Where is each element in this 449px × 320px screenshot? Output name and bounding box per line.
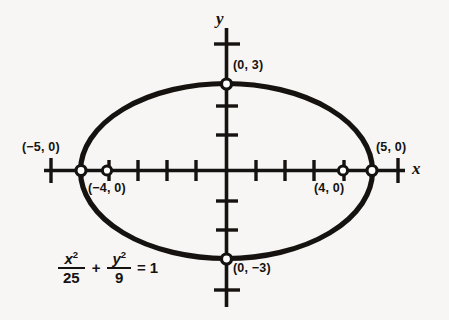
equals-sign: = xyxy=(137,259,146,276)
numerator-y-squared: y2 xyxy=(107,250,131,267)
x-axis-label: x xyxy=(412,159,421,179)
point-0-3 xyxy=(222,79,232,89)
fraction-x-squared-over-25: x2 25 xyxy=(58,250,85,286)
ellipse-figure: y x (0, 3) (0, −3) (−5, 0) (5, 0) (−4, 0… xyxy=(0,0,449,320)
point-neg4-0 xyxy=(102,166,111,175)
point-5-0 xyxy=(367,166,377,176)
label-point-neg4-0: (−4, 0) xyxy=(88,181,126,195)
label-point-neg5-0: (−5, 0) xyxy=(22,140,60,154)
label-point-4-0: (4, 0) xyxy=(314,181,344,195)
plus-operator: + xyxy=(92,259,101,277)
label-point-0-3: (0, 3) xyxy=(233,58,263,72)
denominator-25: 25 xyxy=(58,269,85,285)
point-4-0 xyxy=(338,166,347,175)
label-point-5-0: (5, 0) xyxy=(376,140,406,154)
label-point-0-neg3: (0, −3) xyxy=(233,261,271,275)
fraction-y-squared-over-9: y2 9 xyxy=(107,250,131,286)
variable-x: x xyxy=(65,250,73,267)
exponent-two-x: 2 xyxy=(73,249,78,260)
point-0-neg3 xyxy=(222,254,232,264)
numerator-x-squared: x2 xyxy=(60,250,84,267)
point-neg5-0 xyxy=(76,166,86,176)
right-side-one: 1 xyxy=(150,259,158,276)
y-axis-label: y xyxy=(216,9,224,29)
denominator-9: 9 xyxy=(110,269,128,285)
variable-y: y xyxy=(112,250,120,267)
exponent-two-y: 2 xyxy=(121,249,126,260)
ellipse-equation: x2 25 + y2 9 = 1 xyxy=(56,250,158,286)
